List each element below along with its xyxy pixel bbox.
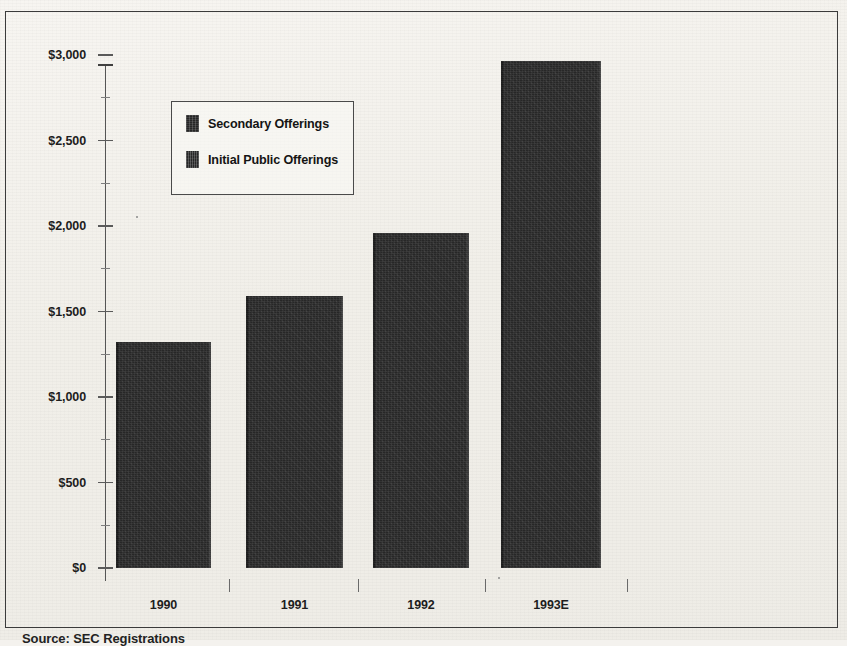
legend-item-1: Secondary Offerings [186, 115, 353, 132]
initial-public-offerings-swatch [186, 151, 199, 168]
figure-source-caption: Source: SEC Registrations [22, 631, 185, 646]
y-axis-minor-tick [101, 183, 110, 184]
x-axis-label-1990: 1990 [150, 598, 177, 612]
y-axis-tick [98, 396, 113, 397]
y-axis-tick-label: $1,500 [14, 305, 86, 319]
y-axis-minor-tick [101, 268, 110, 269]
legend-item-label: Initial Public Offerings [208, 153, 338, 167]
plot-area: $0$500$1,000$1,500$2,000$2,500$3,000 199… [6, 12, 837, 627]
y-axis-minor-tick [101, 439, 110, 440]
x-axis-tick [627, 579, 628, 592]
y-axis-tick [98, 482, 113, 483]
scan-speck [498, 577, 500, 579]
chart-legend: Secondary OfferingsInitial Public Offeri… [171, 101, 354, 195]
chart-frame: $0$500$1,000$1,500$2,000$2,500$3,000 199… [5, 11, 838, 628]
x-axis-tick [229, 579, 230, 592]
bar-1993E [501, 61, 601, 568]
y-axis-tick [98, 567, 113, 568]
y-axis-tick [98, 225, 113, 226]
y-axis-minor-tick [101, 354, 110, 355]
y-axis-tick-label: $0 [14, 561, 86, 575]
secondary-offerings-swatch [186, 115, 199, 132]
scan-speck [136, 216, 138, 218]
y-axis-tick-label: $2,500 [14, 134, 86, 148]
y-axis-tick-label: $500 [14, 476, 86, 490]
y-axis-tick-label: $3,000 [14, 48, 86, 62]
y-axis-tick [98, 140, 113, 141]
legend-item-label: Secondary Offerings [208, 117, 329, 131]
y-axis-tick [98, 54, 113, 55]
x-axis-label-1993E: 1993E [533, 598, 569, 612]
y-axis-top-cap [98, 64, 113, 66]
x-axis-label-1992: 1992 [407, 598, 434, 612]
x-axis-tick [358, 579, 359, 592]
y-axis-tick-label: $2,000 [14, 219, 86, 233]
x-axis-tick [485, 579, 486, 592]
y-axis-tick-label: $1,000 [14, 390, 86, 404]
bar-1990 [116, 342, 211, 568]
y-axis-minor-tick [101, 525, 110, 526]
bar-1992 [373, 233, 469, 568]
bar-1991 [246, 296, 343, 568]
y-axis-tick [98, 311, 113, 312]
y-axis-line [105, 64, 106, 581]
legend-item-2: Initial Public Offerings [186, 151, 353, 168]
x-axis-label-1991: 1991 [281, 598, 308, 612]
y-axis-minor-tick [101, 97, 110, 98]
